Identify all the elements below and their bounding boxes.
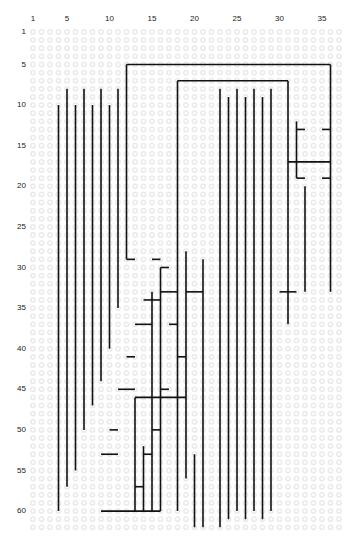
grid-dot <box>124 322 128 326</box>
grid-dot <box>320 208 324 212</box>
grid-dot <box>150 282 154 286</box>
grid-dot <box>133 70 137 74</box>
grid-dot <box>107 468 111 472</box>
grid-dot <box>107 517 111 521</box>
grid-dot <box>303 509 307 513</box>
grid-dot <box>269 70 273 74</box>
grid-dot <box>31 436 35 440</box>
grid-dot <box>286 54 290 58</box>
grid-dot <box>116 501 120 505</box>
grid-dot <box>31 241 35 245</box>
grid-dot <box>209 395 213 399</box>
grid-dot <box>303 436 307 440</box>
grid-dot <box>141 208 145 212</box>
grid-dot <box>141 257 145 261</box>
grid-dot <box>192 420 196 424</box>
grid-dot <box>252 517 256 521</box>
grid-dot <box>209 411 213 415</box>
grid-dot <box>192 135 196 139</box>
grid-dot <box>39 363 43 367</box>
grid-dot <box>107 46 111 50</box>
grid-dot <box>209 314 213 318</box>
grid-dot <box>337 420 341 424</box>
grid-dot <box>243 54 247 58</box>
grid-dot <box>99 476 103 480</box>
grid-dot <box>133 298 137 302</box>
grid-dot <box>337 493 341 497</box>
grid-dot <box>201 208 205 212</box>
grid-dot <box>328 338 332 342</box>
grid-dot <box>167 95 171 99</box>
grid-dot <box>252 38 256 42</box>
grid-dot <box>294 200 298 204</box>
grid-dot <box>99 517 103 521</box>
grid-dot <box>277 233 281 237</box>
grid-dot <box>311 306 315 310</box>
grid-dot <box>184 208 188 212</box>
grid-dot <box>116 330 120 334</box>
grid-dot <box>286 371 290 375</box>
grid-dot <box>337 273 341 277</box>
grid-dot <box>192 184 196 188</box>
grid-dot <box>277 111 281 115</box>
grid-dot <box>286 387 290 391</box>
grid-dot <box>277 192 281 196</box>
grid-dot <box>235 30 239 34</box>
grid-dot <box>286 347 290 351</box>
grid-dot <box>107 420 111 424</box>
grid-dot <box>99 30 103 34</box>
grid-dot <box>235 38 239 42</box>
grid-dot <box>158 176 162 180</box>
grid-dot <box>303 444 307 448</box>
grid-dot <box>116 347 120 351</box>
grid-dot <box>252 54 256 58</box>
grid-dot <box>226 30 230 34</box>
grid-dot <box>31 403 35 407</box>
grid-dot <box>201 95 205 99</box>
grid-dot <box>328 363 332 367</box>
grid-dot <box>192 200 196 204</box>
grid-dot <box>209 387 213 391</box>
grid-dot <box>39 54 43 58</box>
grid-dot <box>99 525 103 529</box>
grid-dot <box>65 62 69 66</box>
grid-dot <box>107 38 111 42</box>
grid-dot <box>167 127 171 131</box>
grid-dot <box>209 468 213 472</box>
grid-dot <box>337 241 341 245</box>
grid-dot <box>31 152 35 156</box>
grid-dot <box>184 144 188 148</box>
grid-dot <box>150 208 154 212</box>
grid-dot <box>303 330 307 334</box>
grid-dot <box>209 452 213 456</box>
grid-dot <box>303 38 307 42</box>
grid-dot <box>31 501 35 505</box>
grid-dot <box>48 46 52 50</box>
grid-dot <box>320 249 324 253</box>
grid-dot <box>167 314 171 318</box>
grid-dot <box>99 54 103 58</box>
grid-dot <box>337 111 341 115</box>
grid-dot <box>337 338 341 342</box>
grid-dot <box>209 338 213 342</box>
grid-dot <box>294 314 298 318</box>
grid-dot <box>116 379 120 383</box>
grid-dot <box>39 347 43 351</box>
grid-dot <box>48 144 52 148</box>
grid-dot <box>133 273 137 277</box>
grid-dot <box>184 127 188 131</box>
grid-dot <box>184 152 188 156</box>
grid-dot <box>48 184 52 188</box>
grid-dot <box>209 476 213 480</box>
grid-dot <box>167 452 171 456</box>
y-tick-label: 55 <box>8 466 26 476</box>
grid-dot <box>303 144 307 148</box>
grid-dot <box>39 208 43 212</box>
grid-dot <box>192 233 196 237</box>
grid-dot <box>337 314 341 318</box>
grid-dot <box>277 485 281 489</box>
grid-dot <box>39 517 43 521</box>
grid-dot <box>277 395 281 399</box>
grid-dot <box>158 208 162 212</box>
grid-dot <box>150 135 154 139</box>
